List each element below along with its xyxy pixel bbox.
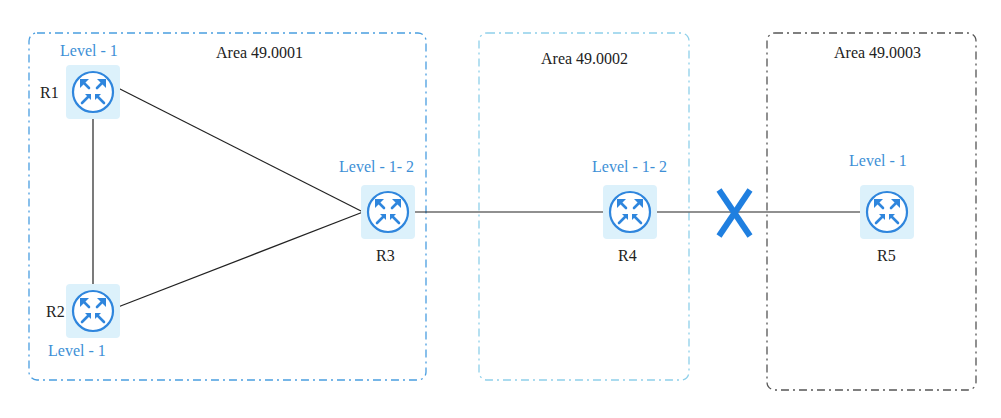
router-r3[interactable] — [361, 185, 415, 239]
router-level-r1: Level - 1 — [60, 42, 118, 59]
router-icon — [66, 284, 120, 338]
link-failure-x-icon — [719, 190, 750, 236]
area-1-label: Area 49.0001 — [216, 44, 303, 61]
area-2-label: Area 49.0002 — [541, 50, 628, 67]
router-r2[interactable] — [66, 284, 120, 338]
router-r4[interactable] — [603, 185, 657, 239]
network-diagram: Area 49.0001 Area 49.0002 Area 49.0003 R… — [0, 0, 1001, 418]
router-name-r2: R2 — [46, 303, 65, 320]
router-level-r2: Level - 1 — [48, 342, 106, 359]
router-icon — [603, 185, 657, 239]
link-r1-r3 — [118, 88, 363, 212]
area-2-boundary — [479, 33, 689, 380]
router-name-r5: R5 — [877, 247, 896, 264]
router-r5[interactable] — [860, 185, 914, 239]
router-icon — [860, 185, 914, 239]
link-r2-r3 — [118, 212, 363, 307]
router-r1[interactable] — [66, 65, 120, 119]
area-3-label: Area 49.0003 — [834, 44, 921, 61]
router-icon — [361, 185, 415, 239]
router-level-r3: Level - 1- 2 — [339, 158, 414, 175]
router-name-r3: R3 — [376, 247, 395, 264]
router-level-r4: Level - 1- 2 — [592, 158, 667, 175]
router-icon — [66, 65, 120, 119]
router-level-r5: Level - 1 — [849, 152, 907, 169]
router-name-r1: R1 — [40, 84, 59, 101]
router-name-r4: R4 — [618, 247, 637, 264]
